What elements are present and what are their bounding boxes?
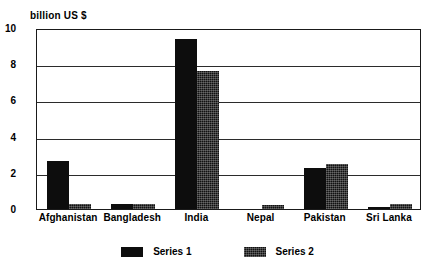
bar-chart: billion US $ 0246810 AfghanistanBanglade… — [0, 0, 435, 276]
legend-swatch-icon — [244, 247, 266, 257]
x-axis-category-label: Sri Lanka — [357, 212, 421, 223]
y-axis-tick-label: 6 — [0, 96, 16, 106]
bar — [47, 161, 69, 209]
bar — [69, 204, 91, 209]
y-axis-title: billion US $ — [30, 10, 87, 21]
legend-entry[interactable]: Series 2 — [244, 246, 314, 257]
bar — [111, 204, 133, 209]
bar — [390, 204, 412, 209]
x-axis-category-label: Pakistan — [293, 212, 357, 223]
bar — [368, 207, 390, 209]
legend-swatch-icon — [121, 247, 143, 257]
bars-layer — [37, 30, 420, 209]
legend: Series 1Series 2 — [0, 246, 435, 257]
y-axis-tick-label: 0 — [0, 205, 16, 215]
x-axis-category-labels: AfghanistanBangladeshIndiaNepalPakistanS… — [36, 212, 421, 230]
bar — [197, 71, 219, 209]
legend-entry[interactable]: Series 1 — [121, 246, 191, 257]
bar — [133, 204, 155, 209]
x-axis-category-label: Afghanistan — [36, 212, 100, 223]
bar — [262, 205, 284, 209]
bar — [304, 168, 326, 209]
bar — [326, 164, 348, 209]
x-axis-category-label: India — [164, 212, 228, 223]
x-axis-category-label: Bangladesh — [100, 212, 164, 223]
y-axis-tick-label: 10 — [0, 24, 16, 34]
plot-area — [36, 29, 421, 210]
y-axis-tick-label: 2 — [0, 169, 16, 179]
y-axis-tick-label: 4 — [0, 133, 16, 143]
legend-label: Series 1 — [153, 246, 191, 257]
legend-label: Series 2 — [276, 246, 314, 257]
y-axis-tick-label: 8 — [0, 60, 16, 70]
bar — [175, 39, 197, 209]
x-axis-category-label: Nepal — [229, 212, 293, 223]
